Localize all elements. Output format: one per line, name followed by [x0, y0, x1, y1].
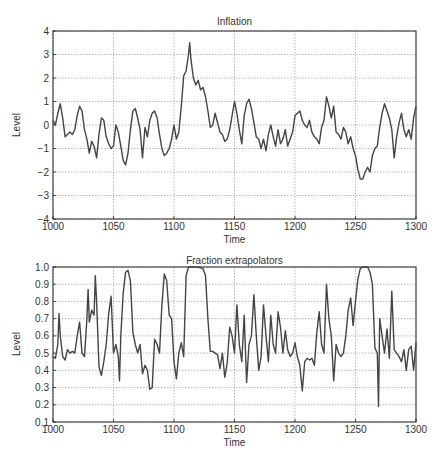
x-tick-label: 1250: [344, 221, 367, 232]
chart-title: Fraction extrapolators: [186, 255, 283, 266]
y-tick-label: 2: [43, 73, 49, 84]
y-tick-label: 1: [43, 96, 49, 107]
y-tick-label: −2: [38, 167, 50, 178]
x-axis-label: Time: [224, 234, 246, 245]
y-tick-label: −4: [38, 214, 50, 225]
x-tick-label: 1100: [163, 424, 185, 435]
x-tick-label: 1100: [163, 221, 185, 232]
y-tick-label: 4: [43, 26, 49, 37]
x-tick-label: 1300: [405, 221, 428, 232]
grid-lines: [53, 31, 416, 219]
y-tick-label: −1: [38, 143, 50, 154]
y-tick-label: 0.1: [35, 417, 49, 428]
x-tick-label: 1250: [344, 424, 367, 435]
inflation-chart: Inflation 1000105011001150120012501300−4…: [11, 16, 428, 245]
y-tick-label: 0.3: [35, 382, 49, 393]
fraction-extrapolators-chart: Fraction extrapolators 10001050110011501…: [11, 255, 428, 448]
y-tick-label: 0.5: [35, 348, 49, 359]
y-tick-label: 0: [43, 120, 49, 131]
inflation-series-line: [53, 43, 416, 179]
axis-ticks: 1000105011001150120012501300−4−3−2−10123…: [38, 26, 428, 233]
x-tick-label: 1200: [284, 424, 307, 435]
y-axis-label: Level: [11, 113, 22, 137]
x-axis-label: Time: [224, 437, 246, 448]
x-tick-label: 1050: [102, 221, 125, 232]
y-tick-label: 0.6: [35, 330, 49, 341]
x-tick-label: 1150: [224, 424, 246, 435]
chart-title: Inflation: [217, 16, 252, 27]
y-tick-label: 0.4: [35, 365, 49, 376]
y-tick-label: 0.7: [35, 313, 49, 324]
x-tick-label: 1050: [102, 424, 125, 435]
figure: Inflation 1000105011001150120012501300−4…: [0, 0, 443, 458]
x-tick-label: 1150: [224, 221, 246, 232]
y-tick-label: 1.0: [35, 262, 49, 273]
y-axis-label: Level: [11, 332, 22, 356]
y-tick-label: 0.2: [35, 399, 49, 410]
y-tick-label: −3: [38, 190, 50, 201]
axis-ticks: 10001050110011501200125013000.10.20.30.4…: [35, 262, 427, 436]
x-tick-label: 1300: [405, 424, 428, 435]
y-tick-label: 0.8: [35, 296, 49, 307]
x-tick-label: 1200: [284, 221, 307, 232]
y-tick-label: 0.9: [35, 279, 49, 290]
y-tick-label: 3: [43, 49, 49, 60]
